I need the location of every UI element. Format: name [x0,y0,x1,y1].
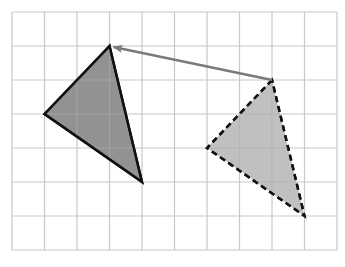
grid-diagram [0,0,345,267]
grid-lines [12,12,337,250]
translation-arrow [114,47,273,80]
arrow-line [114,47,273,80]
